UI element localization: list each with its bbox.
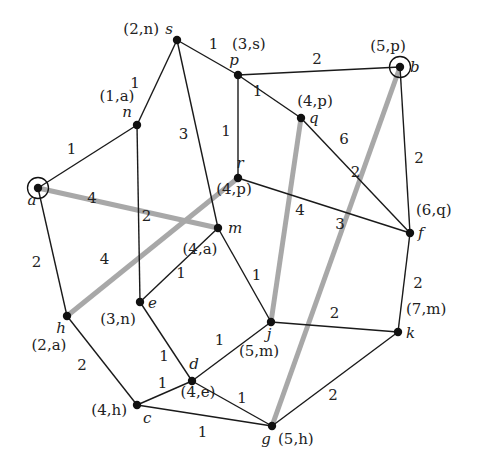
node-distance-tag: (2,n) xyxy=(123,20,159,38)
node-p xyxy=(234,71,242,79)
node-label: m xyxy=(228,219,242,237)
node-distance-tag: (5,p) xyxy=(370,37,406,55)
edge-weight-label: 1 xyxy=(159,347,169,365)
edges-layer xyxy=(38,40,410,426)
edge-weight-label: 1 xyxy=(198,423,208,441)
node-distance-tag: (2,a) xyxy=(32,336,67,354)
node-distance-tag: (4,a) xyxy=(183,240,218,258)
node-q xyxy=(297,114,305,122)
node-label: j xyxy=(264,325,272,343)
node-e xyxy=(136,298,144,306)
node-label: d xyxy=(189,355,199,373)
edge-weight-label: 1 xyxy=(252,266,262,284)
edge-q-j xyxy=(271,118,301,322)
node-s xyxy=(173,36,181,44)
edge-weight-label: 6 xyxy=(339,130,349,148)
edge-weight-label: 1 xyxy=(237,389,247,407)
node-distance-tag: (4,p) xyxy=(216,180,252,198)
highlighted-edges-layer xyxy=(38,67,400,426)
edge-b-g xyxy=(272,67,400,426)
node-label: a xyxy=(28,191,37,209)
edge-weight-label: 1 xyxy=(221,122,231,140)
edge-weight-label: 2 xyxy=(328,386,338,404)
edge-a-m xyxy=(38,188,218,228)
edge-b-f xyxy=(400,67,410,233)
node-f xyxy=(406,229,414,237)
edge-weight-label: 1 xyxy=(158,374,168,392)
node-distance-tag: (5,h) xyxy=(278,430,314,448)
edge-p-b xyxy=(238,67,400,75)
node-distance-tag: (4,h) xyxy=(91,401,127,419)
edge-weight-label: 2 xyxy=(77,356,87,374)
edge-n-e xyxy=(137,125,140,302)
edge-n-a xyxy=(38,125,137,188)
edge-j-k xyxy=(271,322,398,332)
graph-canvas: 113122112232111211112224446s(2,n)p(3,s)b… xyxy=(0,0,479,464)
node-g xyxy=(268,422,276,430)
node-distance-tag: (3,s) xyxy=(232,35,266,53)
node-c xyxy=(133,401,141,409)
edge-weight-label: 2 xyxy=(32,253,42,271)
labels-layer: 113122112232111211112224446s(2,n)p(3,s)b… xyxy=(28,20,452,448)
edge-weight-label: 4 xyxy=(295,201,305,219)
graph-diagram: 113122112232111211112224446s(2,n)p(3,s)b… xyxy=(0,0,479,464)
edge-weight-label: 1 xyxy=(215,331,225,349)
node-distance-tag: (3,n) xyxy=(100,310,136,328)
node-label: c xyxy=(143,409,152,427)
edge-s-n xyxy=(137,40,177,125)
node-label: p xyxy=(229,51,239,69)
edge-weight-label: 3 xyxy=(179,125,189,143)
node-label: f xyxy=(417,224,426,242)
node-label: r xyxy=(236,154,244,172)
edge-weight-label: 2 xyxy=(142,207,152,225)
node-m xyxy=(214,224,222,232)
node-label: h xyxy=(56,319,66,337)
edge-weight-label: 2 xyxy=(312,50,322,68)
edge-weight-label: 4 xyxy=(100,250,110,268)
node-distance-tag: (6,q) xyxy=(416,201,452,219)
node-label: s xyxy=(165,20,173,38)
node-n xyxy=(133,121,141,129)
node-distance-tag: (5,m) xyxy=(239,342,279,360)
node-b xyxy=(396,63,404,71)
edge-weight-label: 1 xyxy=(176,264,186,282)
edge-weight-label: 2 xyxy=(414,149,424,167)
edge-a-h xyxy=(38,188,67,316)
edge-weight-label: 2 xyxy=(413,274,423,292)
edge-p-q xyxy=(238,75,301,118)
node-label: g xyxy=(261,430,271,448)
edge-e-d xyxy=(140,302,192,381)
node-distance-tag: (7,m) xyxy=(406,300,446,318)
node-label: b xyxy=(410,58,420,76)
node-k xyxy=(394,328,402,336)
node-distance-tag: (4,p) xyxy=(297,92,333,110)
node-label: k xyxy=(406,324,415,342)
edge-weight-label: 2 xyxy=(330,304,340,322)
edge-m-j xyxy=(218,228,271,322)
node-label: q xyxy=(309,109,319,127)
edge-weight-label: 1 xyxy=(253,82,263,100)
node-distance-tag: (4,e) xyxy=(181,383,216,401)
node-label: n xyxy=(122,103,132,121)
edge-weight-label: 1 xyxy=(209,35,219,53)
edge-weight-label: 3 xyxy=(335,215,345,233)
node-distance-tag: (1,a) xyxy=(100,87,135,105)
edge-weight-label: 4 xyxy=(87,189,97,207)
node-label: e xyxy=(148,294,157,312)
edge-weight-label: 2 xyxy=(351,163,361,181)
edge-weight-label: 1 xyxy=(67,140,77,158)
